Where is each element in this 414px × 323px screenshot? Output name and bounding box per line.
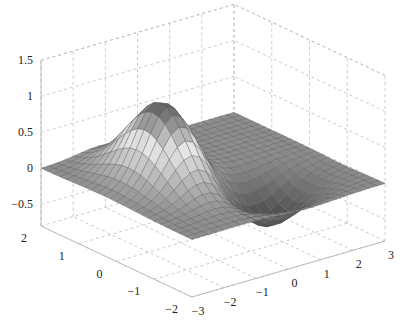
z-tick-label: 1.5 bbox=[18, 53, 33, 67]
x-tick-label: −1 bbox=[256, 285, 269, 299]
z-tick-label: 0 bbox=[27, 161, 33, 175]
x-tick-label: 3 bbox=[388, 248, 394, 262]
y-tick-label: 1 bbox=[59, 249, 65, 263]
x-tick-label: 2 bbox=[356, 257, 362, 271]
x-tick-label: 0 bbox=[292, 276, 298, 290]
surface-plot: −0.500.511.5−2−1012−3−2−10123 bbox=[0, 0, 414, 323]
y-tick-label: −2 bbox=[165, 302, 178, 316]
surface-mesh bbox=[41, 103, 385, 240]
x-tick-label: 1 bbox=[324, 267, 330, 281]
x-tick-label: −2 bbox=[224, 295, 237, 309]
z-tick-label: 0.5 bbox=[18, 125, 33, 139]
z-tick-label: −0.5 bbox=[11, 197, 33, 211]
y-tick-label: 0 bbox=[97, 267, 103, 281]
y-tick-label: 2 bbox=[21, 231, 27, 245]
x-tick-label: −3 bbox=[192, 304, 205, 318]
y-tick-label: −1 bbox=[127, 284, 140, 298]
z-tick-label: 1 bbox=[27, 89, 33, 103]
